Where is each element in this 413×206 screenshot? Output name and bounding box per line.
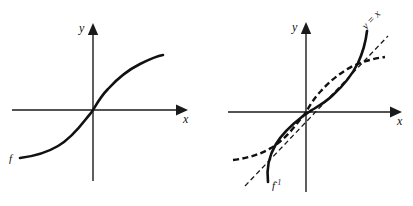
figure-canvas: f x y f-1 y bbox=[0, 0, 413, 206]
right-y-axis-arrowhead bbox=[301, 22, 311, 34]
right-panel: f-1 y = x x y bbox=[228, 8, 403, 192]
left-y-axis-arrowhead bbox=[88, 23, 98, 35]
right-curve-label-f-inverse: f-1 bbox=[272, 178, 281, 191]
left-panel: f x y bbox=[9, 21, 189, 181]
right-y-axis-label: y bbox=[291, 20, 298, 34]
left-curve-f bbox=[20, 55, 163, 158]
right-identity-line bbox=[245, 36, 388, 186]
right-x-axis-label: x bbox=[396, 114, 403, 128]
right-curve-f bbox=[233, 57, 385, 160]
right-identity-label: y = x bbox=[359, 8, 383, 32]
left-y-axis-label: y bbox=[78, 21, 85, 35]
left-curve-label-f: f bbox=[9, 152, 14, 164]
inverse-function-figure: f x y f-1 y bbox=[0, 0, 413, 206]
right-curve-f-inverse bbox=[267, 31, 367, 182]
right-curve-label-superscript: -1 bbox=[275, 178, 281, 187]
left-x-axis bbox=[12, 105, 188, 116]
left-x-axis-label: x bbox=[182, 112, 189, 126]
